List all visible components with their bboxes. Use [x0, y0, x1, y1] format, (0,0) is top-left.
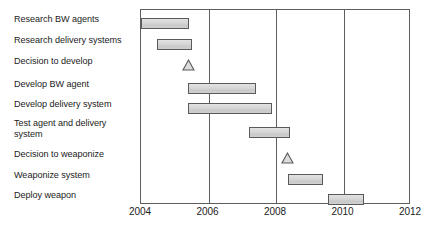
milestone-marker: [281, 152, 294, 164]
x-tick-label-2004: 2004: [129, 206, 151, 217]
task-label: Deploy weapon: [14, 190, 134, 201]
milestone-marker: [182, 59, 195, 71]
gridline-2008: [276, 10, 277, 203]
x-tick-label-2006: 2006: [196, 206, 218, 217]
task-bar: [141, 18, 189, 29]
task-bar: [249, 127, 290, 138]
task-bar: [157, 39, 191, 50]
task-bar: [328, 194, 363, 205]
task-label: Develop delivery system: [14, 99, 134, 110]
task-label: Research BW agents: [14, 14, 134, 25]
task-label: Test agent and delivery system: [14, 118, 134, 140]
task-bar: [188, 83, 256, 94]
task-label-column: Research BW agentsResearch delivery syst…: [0, 0, 134, 236]
plot-area: [140, 9, 410, 204]
task-label: Decision to develop: [14, 56, 134, 67]
x-axis-tick-labels: 20042006200820102012: [0, 206, 434, 226]
task-label: Weaponize system: [14, 170, 134, 181]
task-bar: [188, 103, 272, 114]
task-label: Decision to weaponize: [14, 149, 134, 160]
task-bar: [288, 174, 323, 185]
gantt-chart: Research BW agentsResearch delivery syst…: [0, 0, 434, 236]
x-tick-label-2012: 2012: [399, 206, 421, 217]
task-label: Research delivery systems: [14, 35, 134, 46]
gridline-2010: [344, 10, 345, 203]
x-tick-label-2008: 2008: [264, 206, 286, 217]
task-label: Develop BW agent: [14, 79, 134, 90]
x-tick-label-2010: 2010: [331, 206, 353, 217]
